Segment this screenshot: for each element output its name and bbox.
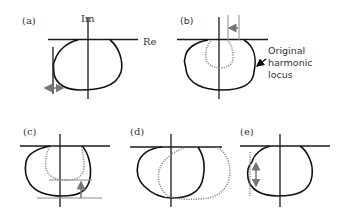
shifted-locus [159, 147, 230, 199]
panel-label-c: (c) [23, 126, 37, 137]
panel-d: (d) [130, 126, 230, 207]
callout-line-2: harmonic [268, 57, 313, 68]
panel-e: (e) [240, 126, 330, 207]
panel-c: (c) [20, 126, 110, 207]
panel-label-e: (e) [240, 126, 254, 137]
callout-line-1: Original [268, 45, 305, 56]
panel-b: (b) Original harmonic locus [177, 15, 313, 99]
harmonic-locus-diagram: (a) Im Re (b) Original harmonic locus (c… [0, 0, 346, 217]
callout-line-3: locus [268, 69, 293, 80]
panel-label-b: (b) [180, 15, 193, 26]
panel-label-d: (d) [130, 126, 144, 137]
panel-a: (a) Im Re [22, 13, 157, 99]
callout-arrow-icon [257, 59, 266, 66]
original-harmonic-locus [184, 40, 255, 90]
shallower-locus [46, 147, 84, 180]
axis-label-re: Re [143, 36, 157, 47]
panel-label-a: (a) [22, 15, 36, 26]
